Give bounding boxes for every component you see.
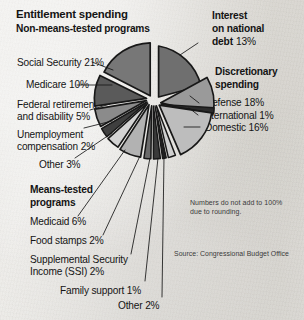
pie-slices <box>94 43 214 159</box>
pie-chart <box>0 0 304 320</box>
